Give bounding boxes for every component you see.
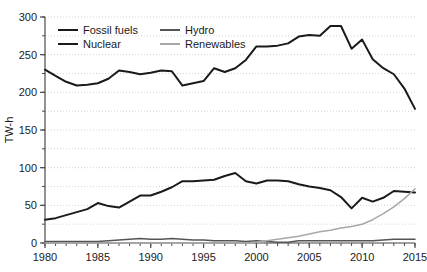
legend-label-fossil-fuels: Fossil fuels [83, 24, 139, 36]
y-tick-label: 100 [19, 162, 37, 174]
y-tick-label: 0 [31, 237, 37, 249]
y-tick-label: 200 [19, 86, 37, 98]
chart-canvas: 050100150200250300 198019851990199520002… [0, 0, 427, 272]
x-tick-label: 2000 [244, 251, 268, 263]
y-tick-label: 50 [25, 199, 37, 211]
x-tick-label: 1990 [138, 251, 162, 263]
legend-label-hydro: Hydro [185, 24, 214, 36]
y-tick-label: 150 [19, 124, 37, 136]
x-tick-label: 1985 [86, 251, 110, 263]
x-tick-label: 1980 [33, 251, 57, 263]
y-axis-title: TW-h [3, 117, 15, 144]
x-tick-label: 2015 [403, 251, 427, 263]
x-tick-label: 2005 [297, 251, 321, 263]
x-tick-label: 1995 [191, 251, 215, 263]
x-tick-label: 2010 [350, 251, 374, 263]
legend-label-renewables: Renewables [185, 38, 246, 50]
y-tick-label: 250 [19, 49, 37, 61]
y-tick-label: 300 [19, 11, 37, 23]
energy-generation-line-chart: 050100150200250300 198019851990199520002… [0, 0, 427, 272]
legend-label-nuclear: Nuclear [83, 38, 121, 50]
